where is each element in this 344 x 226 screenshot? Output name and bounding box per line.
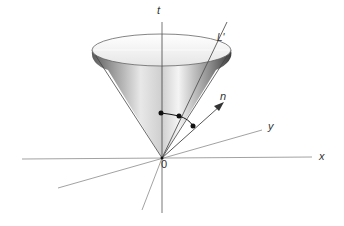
x-axis-label: x [319,150,325,162]
point [191,124,196,129]
t-axis-label: t [157,4,160,16]
line-L-prime-label: L' [217,32,224,43]
lower-line [142,158,162,210]
normal-n-label: n [220,90,226,102]
y-axis-label: y [268,120,274,132]
diagram-canvas [0,0,344,226]
origin-label: 0 [161,158,167,170]
point [177,114,182,119]
light-cone-diagram: t L' n y x 0 [0,0,344,226]
point [159,111,164,116]
cone [92,34,232,158]
